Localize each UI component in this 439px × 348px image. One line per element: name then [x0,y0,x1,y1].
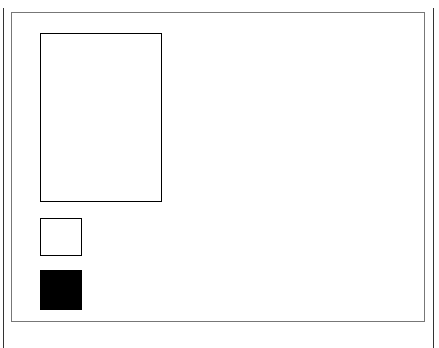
weave-illustration [0,0,439,341]
